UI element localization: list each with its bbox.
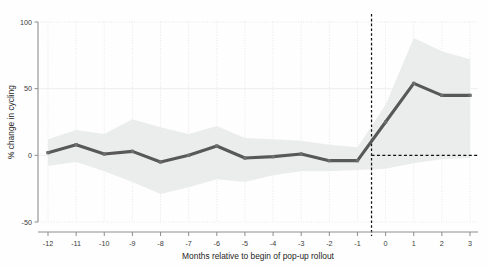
y-axis-title: % change in cycling (6, 85, 16, 159)
x-axis-title: Months relative to begin of pop-up rollo… (182, 251, 334, 261)
x-tick-label: -1 (354, 239, 360, 248)
x-tick-label: -10 (99, 239, 109, 248)
x-tick-label: 2 (440, 239, 444, 248)
y-tick-label: 100 (20, 18, 32, 27)
cycling-change-line-chart: 100500-50 -12-11-10-9-8-7-6-5-4-3-2-1012… (0, 0, 487, 267)
x-tick-label: -6 (214, 239, 220, 248)
confidence-interval-band (48, 38, 470, 194)
x-tick-label: -2 (326, 239, 332, 248)
x-tick-label: -12 (43, 239, 53, 248)
chart-figure: 100500-50 -12-11-10-9-8-7-6-5-4-3-2-1012… (0, 0, 487, 267)
x-tick-label: -8 (157, 239, 163, 248)
x-tick-label: -11 (71, 239, 81, 248)
x-tick-label: -3 (298, 239, 304, 248)
x-tick-label: -7 (185, 239, 191, 248)
x-tick-label: 3 (468, 239, 472, 248)
x-tick-label: -4 (270, 239, 276, 248)
x-axis-ticks (48, 232, 470, 236)
x-tick-label: -5 (242, 239, 248, 248)
x-tick-label: 0 (384, 239, 388, 248)
y-tick-label: -50 (22, 218, 32, 227)
y-axis-tick-labels: 100500-50 (20, 18, 32, 227)
x-axis-tick-labels: -12-11-10-9-8-7-6-5-4-3-2-10123 (43, 239, 472, 248)
x-tick-label: 1 (412, 239, 416, 248)
y-tick-label: 50 (24, 84, 32, 93)
y-tick-label: 0 (28, 151, 32, 160)
x-tick-label: -9 (129, 239, 135, 248)
